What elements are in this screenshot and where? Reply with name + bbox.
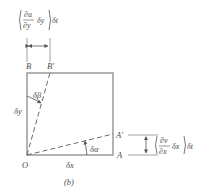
right-denominator: ∂x — [159, 147, 167, 156]
label-B-prime: B′ — [47, 61, 54, 71]
fluid-element-square — [27, 73, 113, 155]
top-factor: δy — [37, 16, 45, 25]
figure-caption: (b) — [64, 177, 74, 187]
right-factor: δx — [172, 142, 180, 151]
top-numerator: ∂u — [24, 10, 32, 19]
right-numerator: ∂v — [160, 136, 168, 145]
top-annotation: ∂u ∂y δy δt — [20, 10, 59, 30]
label-B: B — [26, 61, 31, 71]
top-arrow-head-left — [28, 44, 32, 48]
label-A: A — [116, 150, 123, 160]
label-O: O — [22, 160, 28, 170]
deformation-diagram: ∂u ∂y δy δt ∂v ∂x δx δt B B′ A′ A O δy δ… — [0, 0, 204, 195]
label-beta: δβ — [33, 90, 42, 100]
top-time: δt — [52, 16, 59, 25]
angle-alpha-arc — [85, 141, 87, 155]
label-dx: δx — [66, 160, 74, 170]
top-denominator: ∂y — [23, 21, 31, 30]
label-A-prime: A′ — [115, 130, 123, 140]
right-arrow-head-top — [144, 136, 148, 140]
deformed-edge-OA-prime — [27, 134, 113, 155]
label-alpha: δα — [90, 144, 99, 154]
deformed-edge-OB-prime — [27, 73, 50, 155]
right-annotation: ∂v ∂x δx δt — [156, 136, 194, 156]
right-time: δt — [187, 142, 194, 151]
label-dy: δy — [14, 106, 22, 116]
